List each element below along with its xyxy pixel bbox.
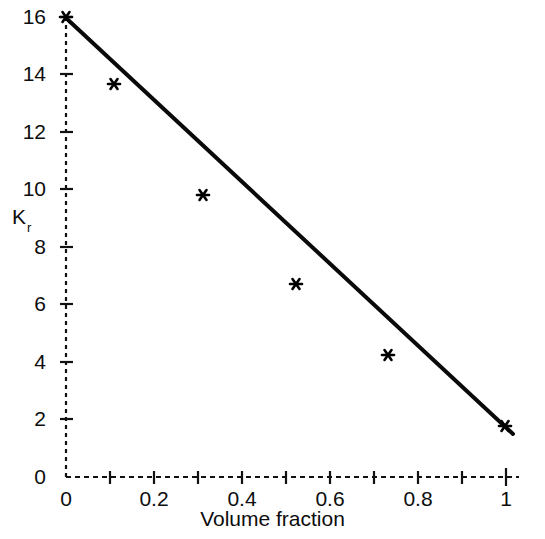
y-tick-label-12: 12 [0, 120, 46, 144]
y-tick-label-10: 10 [0, 177, 46, 201]
y-axis-title: Kr [12, 205, 30, 232]
y-tick-label-14: 14 [0, 62, 46, 86]
y-tick-label-16: 16 [0, 5, 46, 29]
y-tick-label-4: 4 [0, 350, 46, 374]
y-tick-label-6: 6 [0, 292, 46, 316]
y-tick-label-2: 2 [0, 407, 46, 431]
plot-area [0, 0, 545, 539]
chart-figure: 16 14 12 10 8 6 4 2 0 Kr 0 0.2 0.4 0.6 0… [0, 0, 545, 539]
y-axis-title-main: K [12, 205, 26, 228]
data-point [108, 79, 120, 89]
data-point [197, 190, 209, 200]
y-tick-label-8: 8 [0, 235, 46, 259]
y-tick-label-0: 0 [0, 465, 46, 489]
data-point [382, 350, 394, 360]
y-axis-title-subscript: r [27, 220, 31, 235]
data-point [290, 279, 302, 289]
fit-line [66, 18, 513, 434]
x-axis-title: Volume fraction [0, 507, 545, 531]
